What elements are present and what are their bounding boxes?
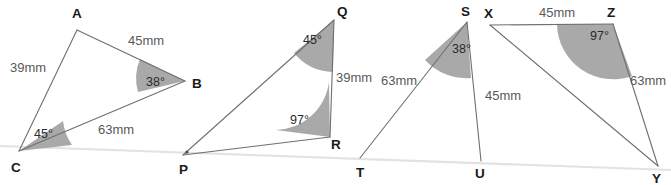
vertex-label-q: Q [337,4,348,19]
vertex-dot-p-marker [185,150,188,153]
diagram-canvas: A B C 45mm 39mm 63mm 38° 45° Q R P 39mm … [0,0,671,185]
vertex-label-c: C [11,160,21,175]
side-label-st: 63mm [381,73,417,88]
side-label-su: 45mm [485,88,521,103]
side-label-xz: 45mm [539,5,575,20]
angle-label-z: 97° [590,29,609,43]
side-label-qr: 39mm [336,70,372,85]
vertex-label-u: U [475,166,485,181]
side-label-cb: 63mm [98,122,134,137]
vertex-label-p: P [179,162,188,177]
vertex-label-z: Z [607,5,615,20]
vertex-label-x: X [484,6,493,21]
angle-label-s: 38° [452,42,471,56]
vertex-label-a: A [72,6,82,21]
edge-p-r [183,137,330,155]
side-label-ac: 39mm [10,60,46,75]
vertex-label-y: Y [652,171,661,185]
angle-wedge-r [276,82,330,137]
vertex-label-b: B [192,76,202,91]
side-label-zy: 63mm [630,73,666,88]
side-label-ab: 45mm [128,33,164,48]
angle-label-b: 38° [146,75,165,89]
geometry-diagram: A B C 45mm 39mm 63mm 38° 45° Q R P 39mm … [0,0,671,185]
angle-label-q: 45° [303,33,322,47]
angle-label-c: 45° [34,127,53,141]
triangle-pqr: Q R P 39mm 45° 97° [179,4,372,177]
edge-z-y [613,24,658,166]
vertex-label-s: S [461,4,470,19]
edge-s-t [360,22,467,158]
vertex-label-r: R [331,137,341,152]
vertex-label-t: T [356,165,365,180]
angle-label-r: 97° [290,113,309,127]
